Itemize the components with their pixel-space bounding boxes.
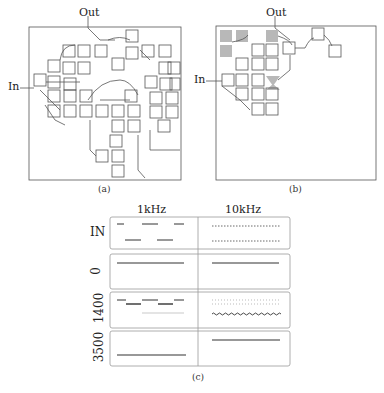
caption-c: (c) — [192, 372, 204, 382]
row-label-in: IN — [90, 225, 105, 239]
row-label-0: 0 — [89, 267, 103, 275]
waveform-grid — [0, 0, 384, 393]
row-label-3500: 3500 — [92, 332, 106, 363]
row-label-1400: 1400 — [92, 293, 106, 324]
